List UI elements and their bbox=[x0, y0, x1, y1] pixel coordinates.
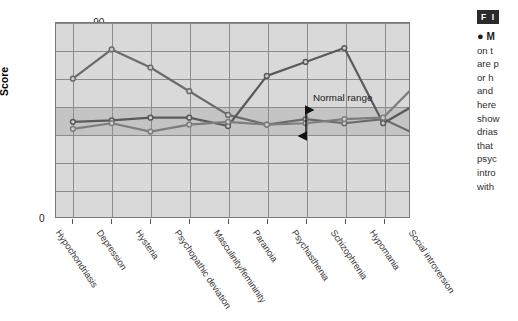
bullet-icon: ● bbox=[477, 30, 484, 42]
caption-line: with bbox=[477, 180, 518, 194]
figure-caption: F I ● M on t are p or h and here show dr… bbox=[477, 6, 518, 193]
caption-line: drias bbox=[477, 125, 518, 139]
caption-line: and bbox=[477, 84, 518, 98]
caption-line: are p bbox=[477, 57, 518, 71]
caption-line: psyc bbox=[477, 152, 518, 166]
caption-line: here bbox=[477, 98, 518, 112]
caption-line: on t bbox=[477, 44, 518, 58]
chart-screenshot: 90 80 70 60 50 40 30 0 Score bbox=[0, 0, 518, 321]
caption-lead: ● M bbox=[477, 30, 518, 44]
caption-line: or h bbox=[477, 71, 518, 85]
caption-line: that bbox=[477, 139, 518, 153]
x-tick-3 bbox=[150, 219, 151, 224]
caption-body: on t are p or h and here show drias that… bbox=[477, 44, 518, 194]
caption-lead-text: M bbox=[486, 31, 494, 42]
x-tick-1 bbox=[72, 219, 73, 224]
x-tick-4 bbox=[189, 219, 190, 224]
x-tick-9 bbox=[384, 219, 385, 224]
x-tick-5 bbox=[228, 219, 229, 224]
x-tick-7 bbox=[306, 219, 307, 224]
x-tick-2 bbox=[111, 219, 112, 224]
caption-line: show bbox=[477, 112, 518, 126]
figure-badge: F I bbox=[477, 10, 499, 24]
x-tick-6 bbox=[267, 219, 268, 224]
caption-line: intro bbox=[477, 166, 518, 180]
x-tick-8 bbox=[345, 219, 346, 224]
normal-range-label: Normal range bbox=[313, 92, 372, 103]
